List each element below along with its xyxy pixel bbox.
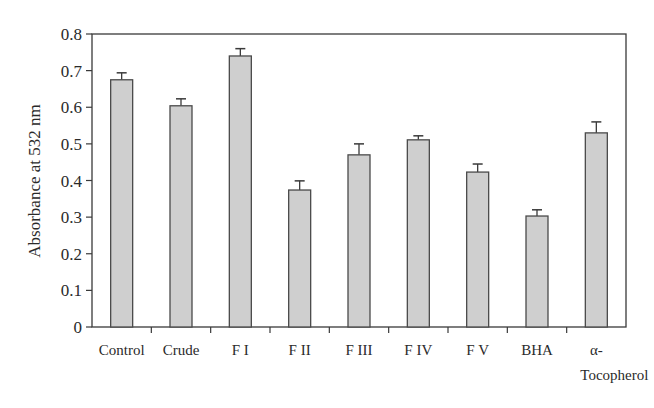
y-tick-label: 0.4 bbox=[61, 172, 83, 191]
bar-group bbox=[229, 49, 251, 327]
x-axis: ControlCrudeF IF IIF IIIF IVF VBHAα-Toco… bbox=[99, 327, 649, 383]
bars bbox=[111, 49, 608, 327]
x-category-label: F I bbox=[232, 342, 249, 358]
bar bbox=[348, 155, 370, 327]
bar bbox=[229, 56, 251, 327]
x-category-label: Crude bbox=[163, 342, 200, 358]
y-axis-label: Absorbance at 532 nm bbox=[25, 104, 44, 257]
bar-group bbox=[407, 136, 429, 327]
bar-group bbox=[526, 210, 548, 327]
bar bbox=[111, 80, 133, 327]
x-category-label: Control bbox=[99, 342, 145, 358]
y-tick-label: 0.6 bbox=[61, 98, 82, 117]
y-axis: 00.10.20.30.40.50.60.70.8 bbox=[61, 25, 92, 337]
x-category-label: F V bbox=[466, 342, 489, 358]
bar-chart: 00.10.20.30.40.50.60.70.8 ControlCrudeF … bbox=[0, 0, 654, 408]
y-tick-label: 0.2 bbox=[61, 245, 82, 264]
bar-group bbox=[585, 122, 607, 327]
y-tick-label: 0.7 bbox=[61, 62, 83, 81]
x-category-label: α- bbox=[590, 342, 603, 358]
y-tick-label: 0.1 bbox=[61, 281, 82, 300]
x-category-label: F II bbox=[289, 342, 311, 358]
x-category-label: F III bbox=[345, 342, 372, 358]
y-tick-label: 0.5 bbox=[61, 135, 82, 154]
bar bbox=[407, 140, 429, 327]
bar bbox=[526, 216, 548, 327]
bar-group bbox=[348, 144, 370, 327]
x-category-label: BHA bbox=[521, 342, 553, 358]
y-tick-label: 0.3 bbox=[61, 208, 82, 227]
bar bbox=[585, 133, 607, 327]
bar-group bbox=[289, 181, 311, 327]
bar-group bbox=[467, 164, 489, 327]
y-tick-label: 0 bbox=[74, 318, 83, 337]
bar bbox=[467, 172, 489, 327]
bar bbox=[170, 106, 192, 327]
bar-group bbox=[111, 73, 133, 327]
x-category-label: Tocopherol bbox=[580, 367, 648, 383]
y-tick-label: 0.8 bbox=[61, 25, 82, 44]
bar-group bbox=[170, 99, 192, 327]
bar bbox=[289, 190, 311, 327]
x-category-label: F IV bbox=[404, 342, 432, 358]
